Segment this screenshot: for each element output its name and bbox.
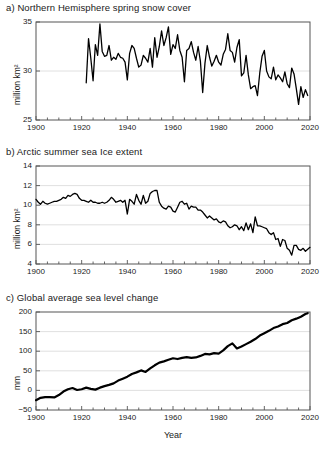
x-tick-label: 1900 bbox=[20, 413, 52, 422]
data-series-line bbox=[86, 24, 307, 104]
plot-frame bbox=[36, 312, 310, 410]
y-tick-label: 10 bbox=[2, 200, 32, 209]
y-tick-label: 0 bbox=[2, 385, 32, 394]
x-tick-label: 1900 bbox=[20, 267, 52, 276]
x-tick-label: 1920 bbox=[66, 413, 98, 422]
x-tick-label: 2000 bbox=[248, 267, 280, 276]
x-tick-label: 2020 bbox=[294, 267, 326, 276]
x-tick-label: 1960 bbox=[157, 413, 189, 422]
y-tick-label: 50 bbox=[2, 366, 32, 375]
panel-a-title: a) Northern Hemisphere spring snow cover bbox=[6, 2, 191, 13]
y-tick-label: 8 bbox=[2, 220, 32, 229]
panel-snow-cover: a) Northern Hemisphere spring snow cover… bbox=[0, 0, 327, 144]
y-tick-label: 35 bbox=[2, 17, 32, 26]
x-tick-label: 1980 bbox=[203, 267, 235, 276]
x-tick-label: 2020 bbox=[294, 123, 326, 132]
y-tick-label: 150 bbox=[2, 327, 32, 336]
x-tick-label: 1940 bbox=[111, 267, 143, 276]
panel-b-plot bbox=[36, 166, 310, 264]
plot-frame bbox=[36, 166, 310, 264]
chart-canvas bbox=[36, 312, 310, 410]
x-tick-label: 1960 bbox=[157, 123, 189, 132]
chart-canvas bbox=[36, 22, 310, 120]
chart-canvas bbox=[36, 166, 310, 264]
x-tick-label: 1920 bbox=[66, 123, 98, 132]
panel-b-title: b) Arctic summer sea Ice extent bbox=[6, 146, 142, 157]
x-tick-label: 1980 bbox=[203, 123, 235, 132]
y-tick-label: 200 bbox=[2, 307, 32, 316]
x-tick-label: 1960 bbox=[157, 267, 189, 276]
panel-c-title: c) Global average sea level change bbox=[6, 292, 158, 303]
x-tick-label: 1900 bbox=[20, 123, 52, 132]
x-tick-label: 1940 bbox=[111, 123, 143, 132]
y-tick-label: 100 bbox=[2, 346, 32, 355]
panel-sea-level: c) Global average sea level change mm Ye… bbox=[0, 290, 327, 452]
panel-sea-ice: b) Arctic summer sea Ice extent million … bbox=[0, 144, 327, 290]
y-tick-label: 6 bbox=[2, 239, 32, 248]
x-axis-title: Year bbox=[36, 430, 310, 440]
x-tick-label: 1980 bbox=[203, 413, 235, 422]
x-tick-label: 1920 bbox=[66, 267, 98, 276]
x-tick-label: 2000 bbox=[248, 413, 280, 422]
data-series-line bbox=[36, 191, 310, 256]
y-tick-label: 12 bbox=[2, 181, 32, 190]
data-series-line bbox=[36, 313, 308, 400]
y-tick-label: 30 bbox=[2, 66, 32, 75]
panel-a-plot bbox=[36, 22, 310, 120]
x-tick-label: 1940 bbox=[111, 413, 143, 422]
x-tick-label: 2000 bbox=[248, 123, 280, 132]
x-tick-label: 2020 bbox=[294, 413, 326, 422]
panel-c-plot bbox=[36, 312, 310, 410]
y-tick-label: 14 bbox=[2, 161, 32, 170]
